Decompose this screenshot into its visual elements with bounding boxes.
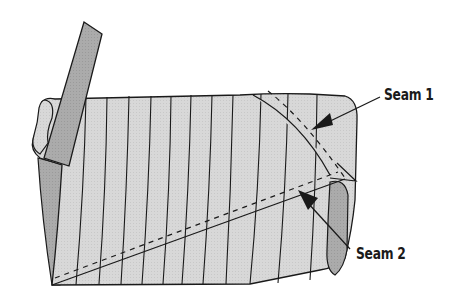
fabric-tube-body xyxy=(32,94,357,285)
seam-1-label: Seam 1 xyxy=(384,86,434,104)
seam-2-label: Seam 2 xyxy=(356,245,406,263)
